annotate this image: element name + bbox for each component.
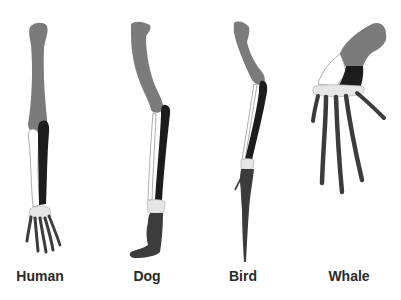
human-humerus xyxy=(28,23,48,132)
homologous-limbs-diagram xyxy=(0,0,401,265)
label-human: Human xyxy=(0,268,80,284)
human-radius xyxy=(38,120,49,205)
label-whale: Whale xyxy=(309,268,389,284)
dog-carpals xyxy=(147,200,165,214)
whale-digits xyxy=(313,93,384,192)
dog-humerus xyxy=(131,22,163,113)
dog-radius xyxy=(155,105,170,200)
label-bird: Bird xyxy=(203,268,283,284)
whale-humerus xyxy=(340,23,386,66)
bird-humerus xyxy=(234,22,265,85)
label-dog: Dog xyxy=(107,268,187,284)
human-limb xyxy=(27,23,60,252)
human-digits xyxy=(27,216,60,252)
dog-ulna xyxy=(148,113,156,200)
bird-limb xyxy=(234,22,268,262)
bird-carpals xyxy=(241,159,254,170)
dog-digits xyxy=(130,213,163,258)
dog-limb xyxy=(130,22,170,258)
whale-limb xyxy=(313,23,386,192)
bird-digits xyxy=(235,169,254,262)
